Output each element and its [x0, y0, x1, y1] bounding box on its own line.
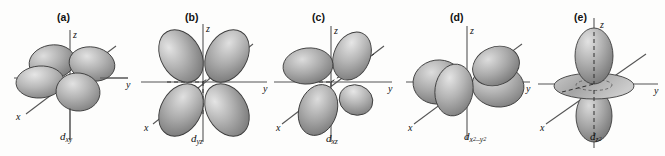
panel-label-a: (a)	[57, 11, 70, 23]
svg-text:x: x	[407, 122, 413, 133]
panel-label-e: (e)	[574, 11, 587, 23]
svg-text:z: z	[72, 29, 77, 40]
panel-label-c: (c)	[312, 11, 325, 23]
panel-a-dxy: (a)	[0, 0, 140, 156]
svg-text:x: x	[539, 122, 545, 133]
svg-text:x: x	[275, 122, 281, 133]
panel-c-dxz: (c)	[264, 0, 399, 156]
orbital-label-b: dyz	[191, 132, 203, 146]
panel-label-d: (d)	[450, 11, 464, 23]
svg-text:z: z	[333, 25, 338, 36]
panel-e-dz2: (e)	[528, 0, 665, 156]
orbital-label-d: dx2–y2	[464, 130, 486, 144]
orbital-label-e: dz2	[590, 130, 602, 144]
svg-text:y: y	[653, 85, 659, 96]
d-orbital-figure: (a)	[0, 0, 665, 156]
panel-b-drawing: z y x	[133, 0, 273, 156]
svg-text:x: x	[15, 111, 21, 122]
svg-text:y: y	[125, 79, 131, 90]
svg-text:x: x	[143, 122, 149, 133]
orbital-lobes-c	[281, 26, 378, 141]
svg-text:z: z	[205, 23, 210, 34]
orbital-label-c: dxz	[326, 132, 338, 146]
orbital-lobes-d	[410, 39, 526, 118]
orbital-label-a: dxy	[60, 130, 72, 144]
axes-c	[274, 26, 392, 142]
panel-b-dyz: (b)	[133, 0, 273, 156]
svg-text:z: z	[599, 19, 604, 30]
panel-label-b: (b)	[185, 11, 199, 23]
panel-d-dx2y2: (d)	[392, 0, 537, 156]
svg-text:z: z	[469, 25, 474, 36]
orbital-lobes-a	[15, 41, 118, 113]
